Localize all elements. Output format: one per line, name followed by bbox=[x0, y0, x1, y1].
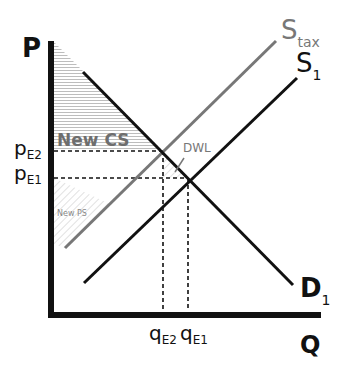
qE1-label: qE1 bbox=[180, 321, 208, 347]
demand-label: D1 bbox=[300, 273, 331, 308]
qE2-label: qE2 bbox=[149, 321, 177, 347]
y-axis-label: P bbox=[22, 33, 41, 63]
x-axis-label: Q bbox=[300, 331, 320, 359]
dwl-label: DWL bbox=[183, 141, 211, 155]
supply-demand-tax-diagram: P Q Stax S1 D1 pE2 pE1 qE2 qE1 New CS Ne… bbox=[0, 0, 344, 365]
pE1-label: pE1 bbox=[14, 161, 42, 187]
new-ps-label: New PS bbox=[57, 209, 87, 218]
supply-original-label: S1 bbox=[296, 48, 321, 83]
supply-tax-label: Stax bbox=[281, 15, 320, 50]
pE2-label: pE2 bbox=[14, 136, 42, 162]
new-cs-label: New CS bbox=[57, 130, 129, 150]
